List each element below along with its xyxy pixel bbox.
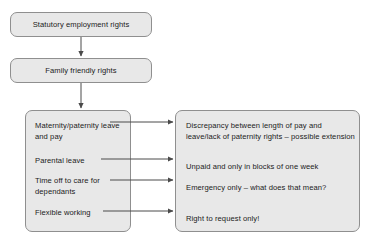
list-item-maternity-label: Maternity/paternity leave and pay [35,121,120,141]
list-item-maternity[interactable]: Maternity/paternity leave and pay [35,121,129,142]
rights-panel: Maternity/paternity leave and pay Parent… [25,110,131,232]
node-family-friendly-rights[interactable]: Family friendly rights [10,58,152,83]
list-item-flexible-working[interactable]: Flexible working [35,208,129,219]
node-family-friendly-rights-label: Family friendly rights [45,66,116,75]
list-item-dependants-issue[interactable]: Emergency only – what does that mean? [186,183,358,194]
list-item-flexible-working-label: Flexible working [35,208,91,217]
list-item-dependants-label: Time off to care for dependants [35,176,100,196]
list-item-parental-issue[interactable]: Unpaid and only in blocks of one week [186,162,358,173]
flowchart-diagram: Statutory employment rights Family frien… [0,0,369,247]
list-item-parental[interactable]: Parental leave [35,156,129,167]
list-item-parental-label: Parental leave [35,156,85,165]
list-item-parental-issue-label: Unpaid and only in blocks of one week [186,162,318,171]
list-item-maternity-issue-label: Discrepancy between length of pay and le… [186,121,355,141]
node-statutory-employment-rights[interactable]: Statutory employment rights [10,12,152,37]
node-statutory-employment-rights-label: Statutory employment rights [33,20,130,29]
list-item-dependants[interactable]: Time off to care for dependants [35,176,129,197]
list-item-flexible-issue[interactable]: Right to request only! [186,214,358,225]
list-item-dependants-issue-label: Emergency only – what does that mean? [186,183,326,192]
list-item-maternity-issue[interactable]: Discrepancy between length of pay and le… [186,121,358,142]
list-item-flexible-issue-label: Right to request only! [186,214,259,223]
issues-panel: Discrepancy between length of pay and le… [175,110,360,232]
